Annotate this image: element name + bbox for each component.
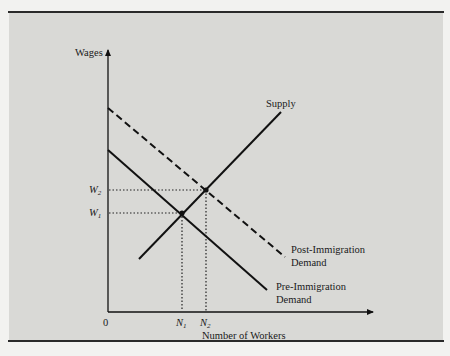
post-immigration-demand-curve (108, 108, 285, 257)
w2-tick-label: W2 (89, 184, 102, 197)
post-demand-label-line2: Demand (291, 257, 327, 268)
w1-tick-label: W1 (89, 207, 101, 220)
pre-demand-label-line2: Demand (276, 294, 312, 305)
y-axis-label: Wages (75, 47, 103, 58)
pre-immigration-demand-curve (108, 150, 267, 290)
origin-label: 0 (103, 317, 108, 328)
x-axis-label: Number of Workers (202, 330, 286, 341)
pre-demand-label-line1: Pre-Immigration (276, 281, 347, 292)
n1-tick-label: N1 (175, 317, 187, 330)
labor-market-chart: Wages 0 Number of Workers Supply Post-Im… (0, 0, 450, 356)
equilibrium-point-2 (203, 187, 208, 192)
equilibrium-point-1 (179, 210, 184, 215)
post-demand-label-line1: Post-Immigration (291, 244, 366, 255)
n2-tick-label: N2 (199, 317, 211, 330)
supply-label: Supply (266, 98, 297, 109)
